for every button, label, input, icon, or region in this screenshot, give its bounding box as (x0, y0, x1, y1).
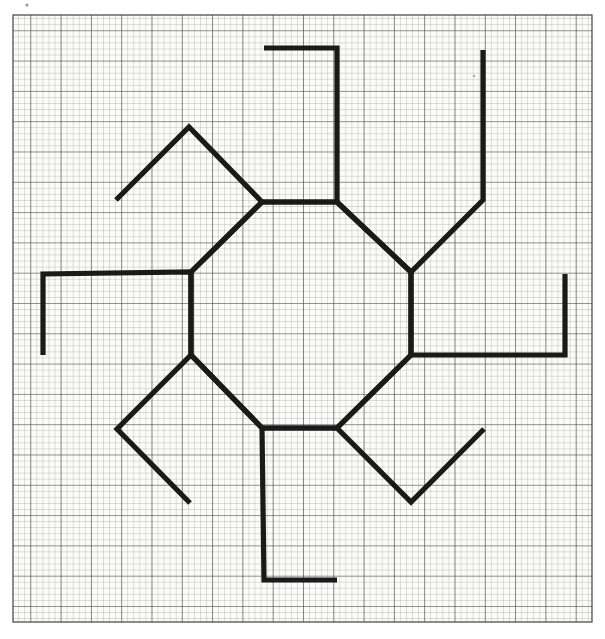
grid-layer (13, 15, 592, 622)
scan-speck-top-left (25, 3, 28, 6)
major-grid-layer (13, 15, 592, 622)
graph-paper-figure-page (0, 0, 605, 639)
octagon-net-diagram (0, 0, 605, 639)
scan-speck-top-right (473, 75, 475, 77)
